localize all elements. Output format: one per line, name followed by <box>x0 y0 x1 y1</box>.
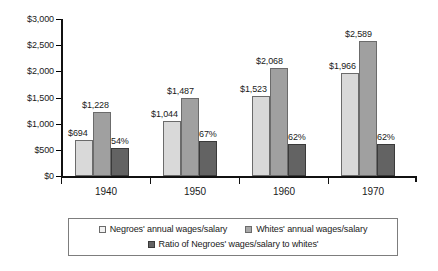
bar-whites-wages-1970[interactable] <box>359 41 377 176</box>
legend-item-label: Ratio of Negroes' wages/salary to whites… <box>159 239 319 249</box>
legend-item-label: Negroes' annual wages/salary <box>110 224 228 234</box>
bar-ratio-1950[interactable] <box>199 141 217 176</box>
bar-chart: $3,000 $2,500 $2,000 $1,500 $1,000 $500 … <box>0 0 438 271</box>
bar-negroes-wages-1960[interactable] <box>252 96 270 176</box>
bar-ratio-1940[interactable] <box>111 148 129 176</box>
bar-negroes-wages-1940[interactable] <box>75 140 93 176</box>
y-axis-tick-label: $1,500 <box>27 94 54 103</box>
bar-negroes-wages-1950[interactable] <box>163 121 181 176</box>
x-axis-labels: 1940 1950 1960 1970 <box>61 186 417 202</box>
legend-item-label: Whites' annual wages/salary <box>256 224 367 234</box>
legend-item-ratio[interactable]: Ratio of Negroes' wages/salary to whites… <box>148 239 319 249</box>
bar-whites-wages-1960[interactable] <box>270 68 288 176</box>
y-axis-tick-label: $500 <box>34 146 54 155</box>
x-axis-tick-label: 1960 <box>273 186 295 197</box>
bars-layer: $694 $1,228 54% $1,044 $1,487 67% $1,523… <box>63 19 415 176</box>
y-axis-tick-label: $2,500 <box>27 41 54 50</box>
x-axis-tick-label: 1950 <box>184 186 206 197</box>
bar-group-1960: $1,523 $2,068 62% <box>240 19 329 176</box>
bar-value-label: $1,487 <box>167 86 194 96</box>
x-axis-tick-mark <box>61 178 62 184</box>
bar-group-1940: $694 $1,228 54% <box>63 19 151 176</box>
bar-value-label: 62% <box>377 132 395 142</box>
plot-area: $3,000 $2,500 $2,000 $1,500 $1,000 $500 … <box>0 0 438 212</box>
x-axis-end-cap <box>415 176 417 182</box>
bar-value-label: $694 <box>68 128 88 138</box>
legend-row-bottom: Ratio of Negroes' wages/salary to whites… <box>69 239 397 249</box>
x-axis-tick-mark <box>328 178 329 184</box>
bar-group-1970: $1,966 $2,589 62% <box>329 19 418 176</box>
y-axis-tick-label: $1,000 <box>27 120 54 129</box>
legend-item-negroes-wages[interactable]: Negroes' annual wages/salary <box>99 224 228 234</box>
bar-value-label: $1,966 <box>329 61 356 71</box>
legend-swatch-light-icon <box>99 226 106 233</box>
y-axis-labels: $3,000 $2,500 $2,000 $1,500 $1,000 $500 … <box>0 0 54 212</box>
y-axis-tick-label: $3,000 <box>27 15 54 24</box>
legend-item-whites-wages[interactable]: Whites' annual wages/salary <box>245 224 367 234</box>
legend-swatch-medium-icon <box>245 226 252 233</box>
bar-ratio-1960[interactable] <box>288 144 306 176</box>
x-axis-tick-mark <box>150 178 151 184</box>
x-axis-tick-mark <box>239 178 240 184</box>
legend: Negroes' annual wages/salary Whites' ann… <box>68 218 398 256</box>
bar-value-label: $1,523 <box>240 84 267 94</box>
legend-row-top: Negroes' annual wages/salary Whites' ann… <box>69 224 397 234</box>
bar-value-label: $1,044 <box>151 109 178 119</box>
bar-value-label: 54% <box>111 136 129 146</box>
bar-whites-wages-1950[interactable] <box>181 98 199 176</box>
bar-value-label: 67% <box>199 129 217 139</box>
bar-value-label: $1,228 <box>82 100 109 110</box>
bar-value-label: $2,068 <box>256 56 283 66</box>
bar-ratio-1970[interactable] <box>377 144 395 176</box>
bar-value-label: $2,589 <box>345 29 372 39</box>
y-axis-tick-label: $2,000 <box>27 67 54 76</box>
y-axis-tick-label: $0 <box>44 172 54 181</box>
bar-value-label: 62% <box>288 132 306 142</box>
bar-whites-wages-1940[interactable] <box>93 112 111 176</box>
x-axis-tick-label: 1970 <box>362 186 384 197</box>
x-axis-tick-label: 1940 <box>95 186 117 197</box>
legend-swatch-dark-icon <box>148 241 155 248</box>
bar-group-1950: $1,044 $1,487 67% <box>151 19 240 176</box>
bar-negroes-wages-1970[interactable] <box>341 73 359 176</box>
